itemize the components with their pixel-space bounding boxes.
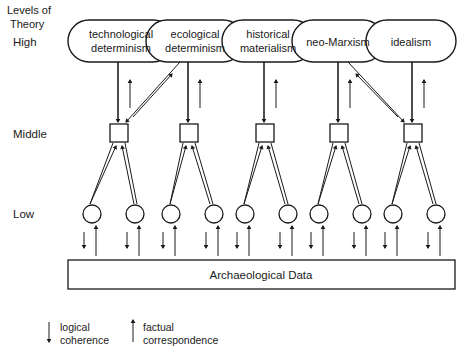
arrow-up-low-10-to-middle-5 bbox=[416, 146, 433, 204]
diagonal-down-neomarxism-to-middle-5 bbox=[348, 62, 404, 122]
middle-node-3[interactable] bbox=[256, 124, 274, 142]
low-node-1[interactable] bbox=[83, 205, 101, 223]
low-node-5[interactable] bbox=[236, 205, 254, 223]
high-to-middle-stems bbox=[118, 62, 412, 122]
legend: logical coherence factual correspondence bbox=[49, 320, 218, 346]
high-node-label-neo-marxism: neo-Marxism bbox=[306, 36, 370, 48]
legend-label-factual-correspondence-line1: factual bbox=[143, 321, 174, 333]
level-label-low: Low bbox=[13, 208, 35, 220]
middle-level-group bbox=[110, 124, 422, 142]
middle-to-low-links bbox=[90, 143, 436, 204]
high-node-label-ecological-determinism-line1: ecological bbox=[171, 28, 220, 40]
high-level-group: technological determinism ecological det… bbox=[68, 20, 456, 62]
low-node-2[interactable] bbox=[126, 205, 144, 223]
arrow-up-low-4-to-middle-2 bbox=[192, 146, 210, 204]
high-node-label-idealism: idealism bbox=[391, 36, 431, 48]
arrow-up-low-1-to-middle-1 bbox=[90, 146, 116, 204]
low-node-10[interactable] bbox=[427, 205, 445, 223]
legend-label-factual-correspondence-line2: correspondence bbox=[143, 334, 218, 346]
archaeological-data-box[interactable]: Archaeological Data bbox=[68, 260, 455, 289]
middle-node-2[interactable] bbox=[180, 124, 198, 142]
low-to-data-arrows bbox=[84, 226, 440, 256]
arrow-up-low-7-to-middle-4 bbox=[318, 146, 336, 204]
high-node-label-historical-materialism-line1: historical bbox=[246, 28, 289, 40]
theory-levels-diagram: Levels of Theory High Middle Low technol… bbox=[0, 0, 469, 359]
middle-node-5[interactable] bbox=[404, 124, 422, 142]
arrow-up-low-6-to-middle-3 bbox=[268, 146, 285, 204]
arrow-up-low-9-to-middle-5 bbox=[392, 146, 410, 204]
level-label-middle: Middle bbox=[13, 128, 47, 140]
middle-node-1[interactable] bbox=[110, 124, 128, 142]
low-node-8[interactable] bbox=[353, 205, 371, 223]
diagonal-up-middle-5-to-neomarxism bbox=[356, 74, 398, 117]
diagonal-up-middle-1-to-ecological bbox=[133, 74, 172, 117]
high-middle-arrow-pairs bbox=[118, 62, 424, 122]
low-node-7[interactable] bbox=[310, 205, 328, 223]
low-level-group bbox=[83, 205, 445, 223]
legend-label-logical-coherence-line1: logical bbox=[60, 321, 90, 333]
legend-label-logical-coherence-line2: coherence bbox=[60, 334, 109, 346]
low-node-3[interactable] bbox=[162, 205, 180, 223]
middle-node-4[interactable] bbox=[330, 124, 348, 142]
arrow-up-low-8-to-middle-4 bbox=[342, 146, 359, 204]
high-node-label-ecological-determinism-line2: determinism bbox=[165, 42, 225, 54]
high-node-label-technological-determinism-line1: technological bbox=[89, 28, 153, 40]
arrow-up-low-2-to-middle-1 bbox=[122, 146, 134, 204]
diagonal-down-ecological-to-middle-1 bbox=[126, 62, 180, 122]
high-node-label-technological-determinism-line2: determinism bbox=[91, 42, 151, 54]
level-axis-labels: High Middle Low bbox=[13, 36, 47, 220]
diagonal-cross-links bbox=[126, 62, 404, 122]
low-node-4[interactable] bbox=[205, 205, 223, 223]
data-box-label: Archaeological Data bbox=[210, 269, 314, 281]
low-node-6[interactable] bbox=[279, 205, 297, 223]
low-node-9[interactable] bbox=[384, 205, 402, 223]
corner-label-line2: Theory bbox=[10, 18, 45, 30]
corner-label: Levels of Theory bbox=[7, 4, 52, 30]
arrow-up-low-3-to-middle-2 bbox=[170, 146, 186, 204]
arrow-up-low-5-to-middle-3 bbox=[244, 146, 262, 204]
level-label-high: High bbox=[13, 36, 37, 48]
corner-label-line1: Levels of bbox=[7, 4, 52, 16]
high-node-label-historical-materialism-line2: materialism bbox=[240, 42, 296, 54]
